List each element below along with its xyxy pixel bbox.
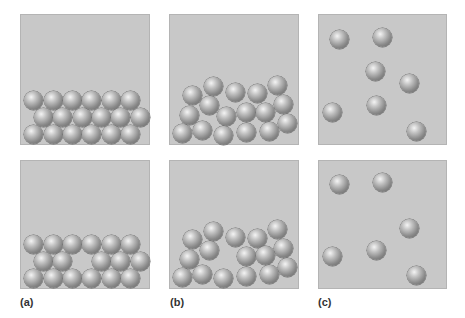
particle-sphere-icon [180,106,199,125]
particle-sphere-icon [53,108,72,127]
panel-label-b: (b) [170,296,184,308]
particle-sphere-icon [373,28,392,47]
particle-sphere-icon [256,246,275,265]
particle-sphere-icon [121,125,140,144]
particle-sphere-icon [121,91,140,110]
particle-sphere-icon [24,269,43,288]
particle-sphere-icon [400,219,419,238]
particle-sphere-icon [367,96,386,115]
particle-sphere-icon [193,265,212,284]
particle-sphere-icon [248,84,267,103]
particle-sphere-icon [102,91,121,110]
particle-sphere-icon [63,235,82,254]
particle-sphere-icon [111,108,130,127]
particle-sphere-icon [44,269,63,288]
particle-sphere-icon [44,125,63,144]
particle-sphere-icon [204,222,223,241]
particle-sphere-icon [217,107,236,126]
particle-sphere-icon [260,265,279,284]
particle-sphere-icon [268,220,287,239]
particle-sphere-icon [237,103,256,122]
particle-sphere-icon [102,269,121,288]
particle-sphere-icon [102,125,121,144]
particle-sphere-icon [226,228,245,247]
particle-sphere-icon [183,230,202,249]
particle-sphere-icon [237,267,256,286]
particle-sphere-icon [82,235,101,254]
particle-sphere-icon [278,114,297,133]
particle-sphere-icon [366,62,385,81]
panel-label-a: (a) [20,296,33,308]
particle-sphere-icon [34,108,53,127]
particle-sphere-icon [102,235,121,254]
particle-sphere-icon [373,173,392,192]
particle-sphere-icon [407,122,426,141]
particle-sphere-icon [24,125,43,144]
particle-sphere-icon [274,239,293,258]
particle-sphere-icon [278,258,297,277]
particle-sphere-icon [214,126,233,145]
particle-sphere-icon [73,108,92,127]
particle-sphere-icon [92,108,111,127]
particle-sphere-icon [237,123,256,142]
particle-sphere-icon [204,77,223,96]
particle-sphere-icon [44,235,63,254]
particle-sphere-icon [200,241,219,260]
particle-sphere-icon [248,229,267,248]
particle-sphere-icon [237,247,256,266]
particle-sphere-icon [323,103,342,122]
particle-sphere-icon [173,268,192,287]
particle-sphere-icon [330,175,349,194]
particle-sphere-icon [330,30,349,49]
particle-sphere-icon [92,252,111,271]
particle-sphere-icon [63,269,82,288]
particle-sphere-icon [274,95,293,114]
particle-sphere-icon [214,269,233,288]
particle-sphere-icon [82,269,101,288]
particle-sphere-icon [400,74,419,93]
particle-sphere-icon [121,269,140,288]
particle-sphere-icon [111,252,130,271]
particle-sphere-icon [44,91,63,110]
particle-sphere-icon [131,108,150,127]
particle-sphere-icon [63,125,82,144]
panel-label-c: (c) [318,296,331,308]
particle-sphere-icon [407,266,426,285]
particle-sphere-icon [180,250,199,269]
particle-sphere-icon [226,83,245,102]
particle-sphere-icon [183,86,202,105]
particle-sphere-icon [367,241,386,260]
particle-sphere-icon [200,96,219,115]
particle-sphere-icon [24,91,43,110]
particle-sphere-icon [82,91,101,110]
particle-sphere-icon [34,252,53,271]
particle-sphere-icon [193,121,212,140]
particle-sphere-icon [121,235,140,254]
particle-sphere-icon [63,91,82,110]
particle-sphere-icon [82,125,101,144]
particle-sphere-icon [173,124,192,143]
particle-sphere-icon [260,122,279,141]
particle-sphere-icon [256,103,275,122]
particle-sphere-icon [268,76,287,95]
particle-sphere-icon [24,235,43,254]
particle-sphere-icon [53,252,72,271]
particle-sphere-icon [131,252,150,271]
particle-sphere-icon [323,247,342,266]
